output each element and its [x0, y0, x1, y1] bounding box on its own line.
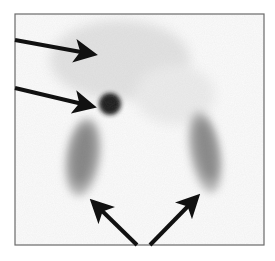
- scintigraphy-figure: [0, 0, 275, 261]
- scan-image: [0, 0, 275, 261]
